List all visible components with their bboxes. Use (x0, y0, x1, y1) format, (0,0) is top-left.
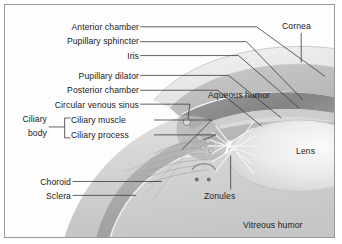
label-ciliary-body-line2: body (28, 128, 47, 138)
pupillary-dilator-mark-b (207, 178, 211, 182)
label-pupillary-sphincter: Pupillary sphincter (67, 36, 139, 46)
label-cornea: Cornea (282, 21, 311, 31)
label-vitreous-humor: Vitreous humor (243, 220, 303, 230)
label-sclera: Sclera (46, 191, 71, 201)
figure-frame: Anterior chamber Pupillary sphincter Iri… (4, 4, 335, 238)
circular-venous-sinus-mark (183, 118, 190, 125)
label-anterior-chamber: Anterior chamber (71, 22, 139, 32)
label-ciliary-process: Ciliary process (71, 130, 129, 140)
label-ciliary-body-line1: Ciliary (22, 114, 47, 124)
pupillary-dilator-mark-a (195, 178, 199, 182)
eye-anatomy-illustration (5, 5, 334, 237)
label-zonules: Zonules (204, 191, 235, 201)
label-lens: Lens (296, 146, 315, 156)
label-pupillary-dilator: Pupillary dilator (79, 71, 139, 81)
label-ciliary-muscle: Ciliary muscle (71, 115, 126, 125)
label-aqueous-humor: Aqueous humor (208, 90, 270, 100)
ciliary-body-bracket (49, 118, 71, 138)
label-circular-venous-sinus: Circular venous sinus (55, 100, 139, 110)
label-choroid: Choroid (40, 177, 71, 187)
label-iris: Iris (127, 51, 139, 61)
eye-anatomy-figure: Anterior chamber Pupillary sphincter Iri… (0, 0, 342, 244)
label-posterior-chamber: Posterior chamber (67, 85, 139, 95)
